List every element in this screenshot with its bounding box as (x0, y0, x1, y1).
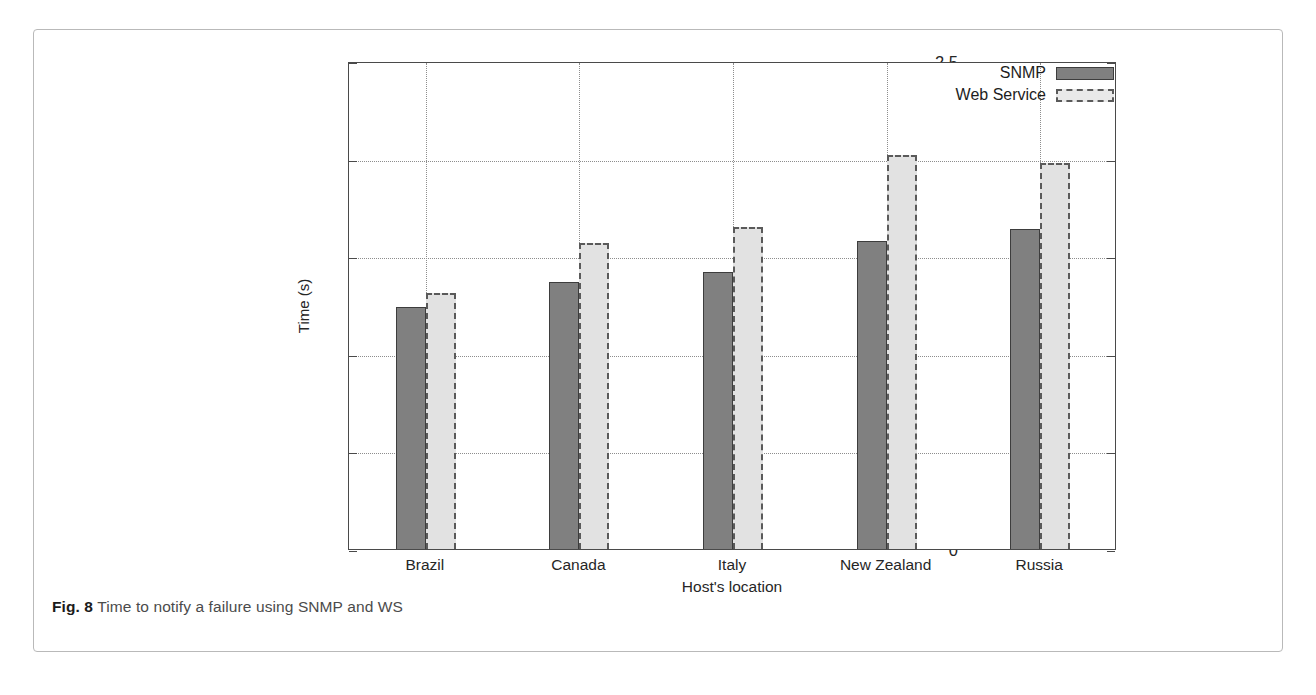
bar-brazil-web-service (426, 293, 456, 549)
y-axis-tick (1107, 453, 1115, 454)
figure-page: Time (s) 00.511.522.5 BrazilCanadaItalyN… (0, 0, 1316, 695)
x-axis-tick-label: New Zealand (840, 556, 931, 574)
bar-new-zealand-web-service (887, 155, 917, 549)
plot-area (348, 62, 1116, 550)
y-axis-tick (349, 356, 357, 357)
gridline (349, 258, 1115, 259)
x-axis-tick-label: Russia (1015, 556, 1062, 574)
y-axis-tick (349, 453, 357, 454)
legend-swatch-web-service (1056, 89, 1114, 102)
chart-legend: SNMP Web Service (828, 63, 1114, 109)
figure-caption: Fig. 8 Time to notify a failure using SN… (52, 598, 403, 616)
bar-canada-snmp (549, 282, 579, 549)
figure-caption-label: Fig. 8 (52, 598, 93, 615)
y-axis-tick (349, 63, 357, 64)
legend-item-snmp: SNMP (828, 63, 1114, 83)
x-axis-tick-label: Canada (551, 556, 605, 574)
bar-russia-snmp (1010, 229, 1040, 549)
y-axis-tick (1107, 161, 1115, 162)
y-axis-tick (349, 551, 357, 552)
y-axis-tick (1107, 551, 1115, 552)
figure-caption-text: Time to notify a failure using SNMP and … (93, 598, 403, 615)
x-axis-title: Host's location (682, 578, 782, 596)
y-axis-title: Time (s) (295, 279, 312, 333)
bar-italy-snmp (703, 272, 733, 549)
bar-canada-web-service (579, 243, 609, 549)
y-axis-tick (349, 258, 357, 259)
bar-chart: Time (s) 00.511.522.5 BrazilCanadaItalyN… (0, 0, 1316, 695)
bar-italy-web-service (733, 227, 763, 549)
bar-russia-web-service (1040, 163, 1070, 549)
x-axis-tick-label: Brazil (405, 556, 444, 574)
x-axis-tick-label: Italy (718, 556, 746, 574)
legend-item-web-service: Web Service (828, 85, 1114, 105)
y-axis-tick (1107, 356, 1115, 357)
y-axis-tick (1107, 258, 1115, 259)
bar-new-zealand-snmp (857, 241, 887, 549)
legend-swatch-snmp (1056, 67, 1114, 80)
legend-label-web-service: Web Service (956, 86, 1046, 104)
bar-brazil-snmp (396, 307, 426, 549)
legend-label-snmp: SNMP (1000, 64, 1046, 82)
y-axis-tick (349, 161, 357, 162)
gridline (349, 161, 1115, 162)
